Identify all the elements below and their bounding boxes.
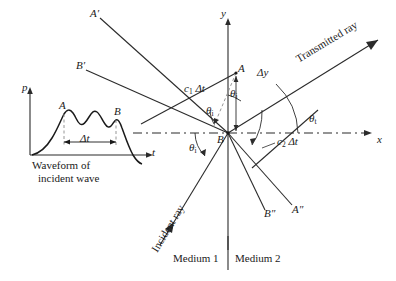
inset-y-axis-label: p — [22, 82, 28, 93]
theta-i-mid-subscript: i — [211, 109, 213, 118]
ray-a-dprime — [228, 133, 265, 210]
c2-delta-t: Δt — [288, 135, 298, 147]
theta-i-upper-subscript: i — [235, 92, 237, 101]
transmitted-ray-arrow — [366, 40, 378, 50]
refraction-figure: p t A B Δt Waveform of incident wave y x… — [0, 0, 396, 281]
medium-2-label: Medium 2 — [235, 253, 281, 264]
point-a-dprime-label: A″ — [292, 204, 303, 215]
point-b-prime-label: B′ — [76, 60, 85, 71]
theta-i-upper-label: θi — [230, 88, 237, 100]
inset-peak-b-label: B — [114, 106, 121, 117]
point-a-prime-label: A′ — [90, 8, 99, 19]
inset-caption-line1: Waveform of — [32, 160, 90, 171]
theta-i-lower-subscript: i — [194, 146, 196, 155]
point-b-dot — [226, 131, 230, 135]
c2-delta-t-label: c2 Δt — [277, 136, 298, 148]
c2-leader-line — [262, 143, 275, 148]
point-b-dprime-label: B″ — [264, 208, 275, 219]
ray-b-prime — [86, 70, 228, 133]
inset-delta-t-arrow-right — [110, 140, 116, 145]
delta-y-label: Δy — [257, 67, 268, 78]
inset-waveform-plot — [27, 87, 153, 164]
inset-x-axis-label: t — [152, 147, 155, 158]
inset-y-axis-arrow — [27, 87, 33, 94]
medium-1-label: Medium 1 — [173, 253, 219, 264]
c1-delta-t-label: c1 Δt — [184, 83, 205, 95]
c1-delta-t: Δt — [195, 82, 205, 94]
y-axis-label: y — [221, 8, 226, 19]
x-axis-label: x — [377, 134, 382, 145]
theta-t-subscript: t — [314, 117, 316, 126]
inset-delta-t-arrow-left — [64, 140, 70, 145]
inset-caption-line2: incident wave — [38, 173, 99, 184]
incident-wavefront — [141, 73, 236, 124]
y-axis-arrow — [225, 18, 231, 25]
inset-peak-a-label: A — [59, 100, 66, 111]
arc-theta-i-lower-arrow — [200, 149, 206, 156]
theta-i-mid-label: θi — [206, 105, 213, 117]
inset-delta-t-label: Δt — [80, 133, 90, 144]
spacer — [86, 18, 100, 70]
x-axis-arrow — [364, 130, 372, 136]
delta-y-arrow-top — [234, 76, 239, 82]
theta-t-label: θt — [309, 113, 316, 125]
point-a-label: A — [238, 63, 245, 74]
point-b-label: B — [217, 134, 224, 145]
theta-i-lower-label: θi — [189, 142, 196, 154]
